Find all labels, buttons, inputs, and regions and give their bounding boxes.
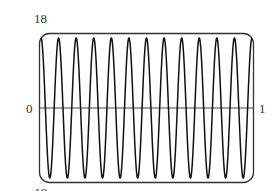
x-min-label: 0	[26, 102, 33, 115]
y-max-label: 18	[34, 12, 47, 25]
y-min-label: -18	[30, 186, 47, 191]
x-max-label: 1	[259, 102, 266, 115]
plot-area	[0, 0, 273, 191]
